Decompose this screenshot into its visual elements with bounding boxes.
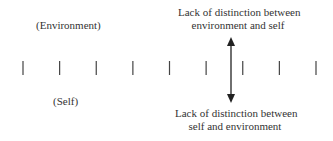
arrow-head-down-icon bbox=[227, 94, 235, 103]
arrow-head-up-icon bbox=[227, 37, 235, 46]
double-arrow bbox=[227, 37, 235, 103]
tick-marks bbox=[23, 61, 316, 75]
tick-scale-diagram bbox=[0, 0, 333, 141]
